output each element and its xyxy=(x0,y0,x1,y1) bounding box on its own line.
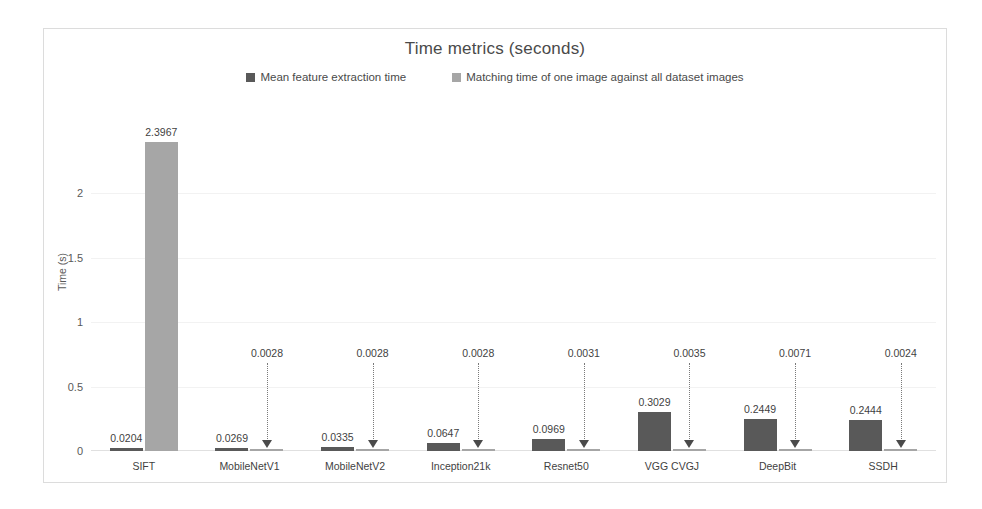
bar-group: 0.24490.0071DeepBit xyxy=(725,129,831,451)
bar-extraction-time[interactable] xyxy=(638,412,671,451)
callout-arrow-icon xyxy=(684,440,694,448)
bar-extraction-time[interactable] xyxy=(744,419,777,451)
y-axis-tick-label: 0 xyxy=(77,445,83,457)
bar-value-label: 0.0204 xyxy=(110,432,142,444)
bar-value-label: 0.2444 xyxy=(850,404,882,416)
bar-group: 0.30290.0035VGG CVGJ xyxy=(619,129,725,451)
callout-leader-line xyxy=(584,363,585,441)
bar-value-callout-label: 0.0028 xyxy=(462,347,494,359)
x-axis-category-label: Resnet50 xyxy=(544,460,589,472)
bar-group: 0.06470.0028Inception21k xyxy=(408,129,514,451)
bar-value-label: 0.0647 xyxy=(427,427,459,439)
legend-entry-extraction: Mean feature extraction time xyxy=(246,71,406,83)
bar-value-callout-label: 0.0071 xyxy=(779,347,811,359)
bar-extraction-time[interactable] xyxy=(110,448,143,451)
bar-value-label: 0.0969 xyxy=(533,423,565,435)
callout-arrow-icon xyxy=(262,440,272,448)
callout-leader-line xyxy=(373,363,374,441)
bar-group: 0.03350.0028MobileNetV2 xyxy=(302,129,408,451)
callout-leader-line xyxy=(901,363,902,441)
bar-value-callout-label: 0.0031 xyxy=(568,347,600,359)
x-axis-category-label: MobileNetV2 xyxy=(325,460,385,472)
y-axis-tick-label: 2 xyxy=(77,187,83,199)
x-axis-category-label: DeepBit xyxy=(759,460,796,472)
y-axis-tick-label: 1 xyxy=(77,316,83,328)
y-axis-tick-label: 1.5 xyxy=(68,252,83,264)
bar-matching-time[interactable] xyxy=(673,449,706,451)
legend-label-extraction: Mean feature extraction time xyxy=(260,71,406,83)
bar-extraction-time[interactable] xyxy=(849,420,882,451)
bar-group: 0.02042.3967SIFT xyxy=(91,129,197,451)
bar-matching-time[interactable] xyxy=(462,449,495,451)
y-axis-tick-label: 0.5 xyxy=(68,381,83,393)
callout-arrow-icon xyxy=(579,440,589,448)
callout-arrow-icon xyxy=(790,440,800,448)
legend-swatch-matching xyxy=(452,73,461,82)
bar-value-callout-label: 0.0028 xyxy=(251,347,283,359)
legend-entry-matching: Matching time of one image against all d… xyxy=(452,71,743,83)
bar-extraction-time[interactable] xyxy=(215,448,248,451)
bar-matching-time[interactable] xyxy=(250,449,283,451)
x-axis-category-label: MobileNetV1 xyxy=(219,460,279,472)
bar-matching-time[interactable] xyxy=(145,142,178,451)
bar-extraction-time[interactable] xyxy=(321,447,354,451)
callout-leader-line xyxy=(267,363,268,441)
bar-matching-time[interactable] xyxy=(779,449,812,451)
bar-value-label: 0.0335 xyxy=(322,431,354,443)
callout-leader-line xyxy=(689,363,690,441)
chart-frame: Time metrics (seconds) Mean feature extr… xyxy=(43,28,947,483)
bar-matching-time[interactable] xyxy=(884,449,917,451)
bar-group: 0.24440.0024SSDH xyxy=(830,129,936,451)
callout-arrow-icon xyxy=(473,440,483,448)
callout-leader-line xyxy=(478,363,479,441)
legend-swatch-extraction xyxy=(246,73,255,82)
bar-value-label: 0.0269 xyxy=(216,432,248,444)
legend-label-matching: Matching time of one image against all d… xyxy=(466,71,743,83)
bar-extraction-time[interactable] xyxy=(532,439,565,451)
bar-group: 0.09690.0031Resnet50 xyxy=(514,129,620,451)
chart-legend: Mean feature extraction time Matching ti… xyxy=(44,71,946,83)
x-axis-category-label: SSDH xyxy=(869,460,898,472)
bar-value-callout-label: 0.0028 xyxy=(357,347,389,359)
bar-value-callout-label: 0.0035 xyxy=(673,347,705,359)
bar-group: 0.02690.0028MobileNetV1 xyxy=(197,129,303,451)
bar-value-label: 0.2449 xyxy=(744,403,776,415)
x-axis-category-label: Inception21k xyxy=(431,460,491,472)
x-axis-category-label: SIFT xyxy=(132,460,155,472)
callout-leader-line xyxy=(795,363,796,441)
chart-title: Time metrics (seconds) xyxy=(44,39,946,59)
y-axis-title: Time (s) xyxy=(56,253,68,291)
bar-extraction-time[interactable] xyxy=(427,443,460,451)
bar-value-callout-label: 0.0024 xyxy=(885,347,917,359)
bar-value-label: 0.3029 xyxy=(638,396,670,408)
callout-arrow-icon xyxy=(896,440,906,448)
plot-area: 00.511.520.02042.3967SIFT0.02690.0028Mob… xyxy=(91,129,936,451)
x-axis-category-label: VGG CVGJ xyxy=(645,460,699,472)
bar-matching-time[interactable] xyxy=(567,449,600,451)
bar-value-label: 2.3967 xyxy=(145,126,177,138)
callout-arrow-icon xyxy=(368,440,378,448)
bar-matching-time[interactable] xyxy=(356,449,389,451)
